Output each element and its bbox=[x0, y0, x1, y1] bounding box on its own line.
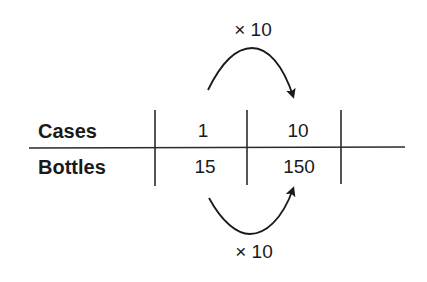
top-multiplier-label: × 10 bbox=[234, 20, 272, 39]
cell-bottles-col2: 150 bbox=[283, 157, 315, 176]
ratio-table-diagram: × 10 × 10 Cases Bottles 1 10 15 150 bbox=[0, 0, 427, 282]
bottom-multiplier-label: × 10 bbox=[235, 242, 273, 261]
row-label-bottles: Bottles bbox=[38, 157, 106, 177]
bottom-multiply-arrow bbox=[209, 189, 293, 234]
cell-bottles-col1: 15 bbox=[194, 157, 215, 176]
cell-cases-col1: 1 bbox=[198, 121, 209, 140]
cell-cases-col2: 10 bbox=[287, 121, 308, 140]
row-divider bbox=[29, 147, 405, 148]
top-multiply-arrow bbox=[208, 48, 293, 96]
row-label-cases: Cases bbox=[38, 121, 97, 141]
